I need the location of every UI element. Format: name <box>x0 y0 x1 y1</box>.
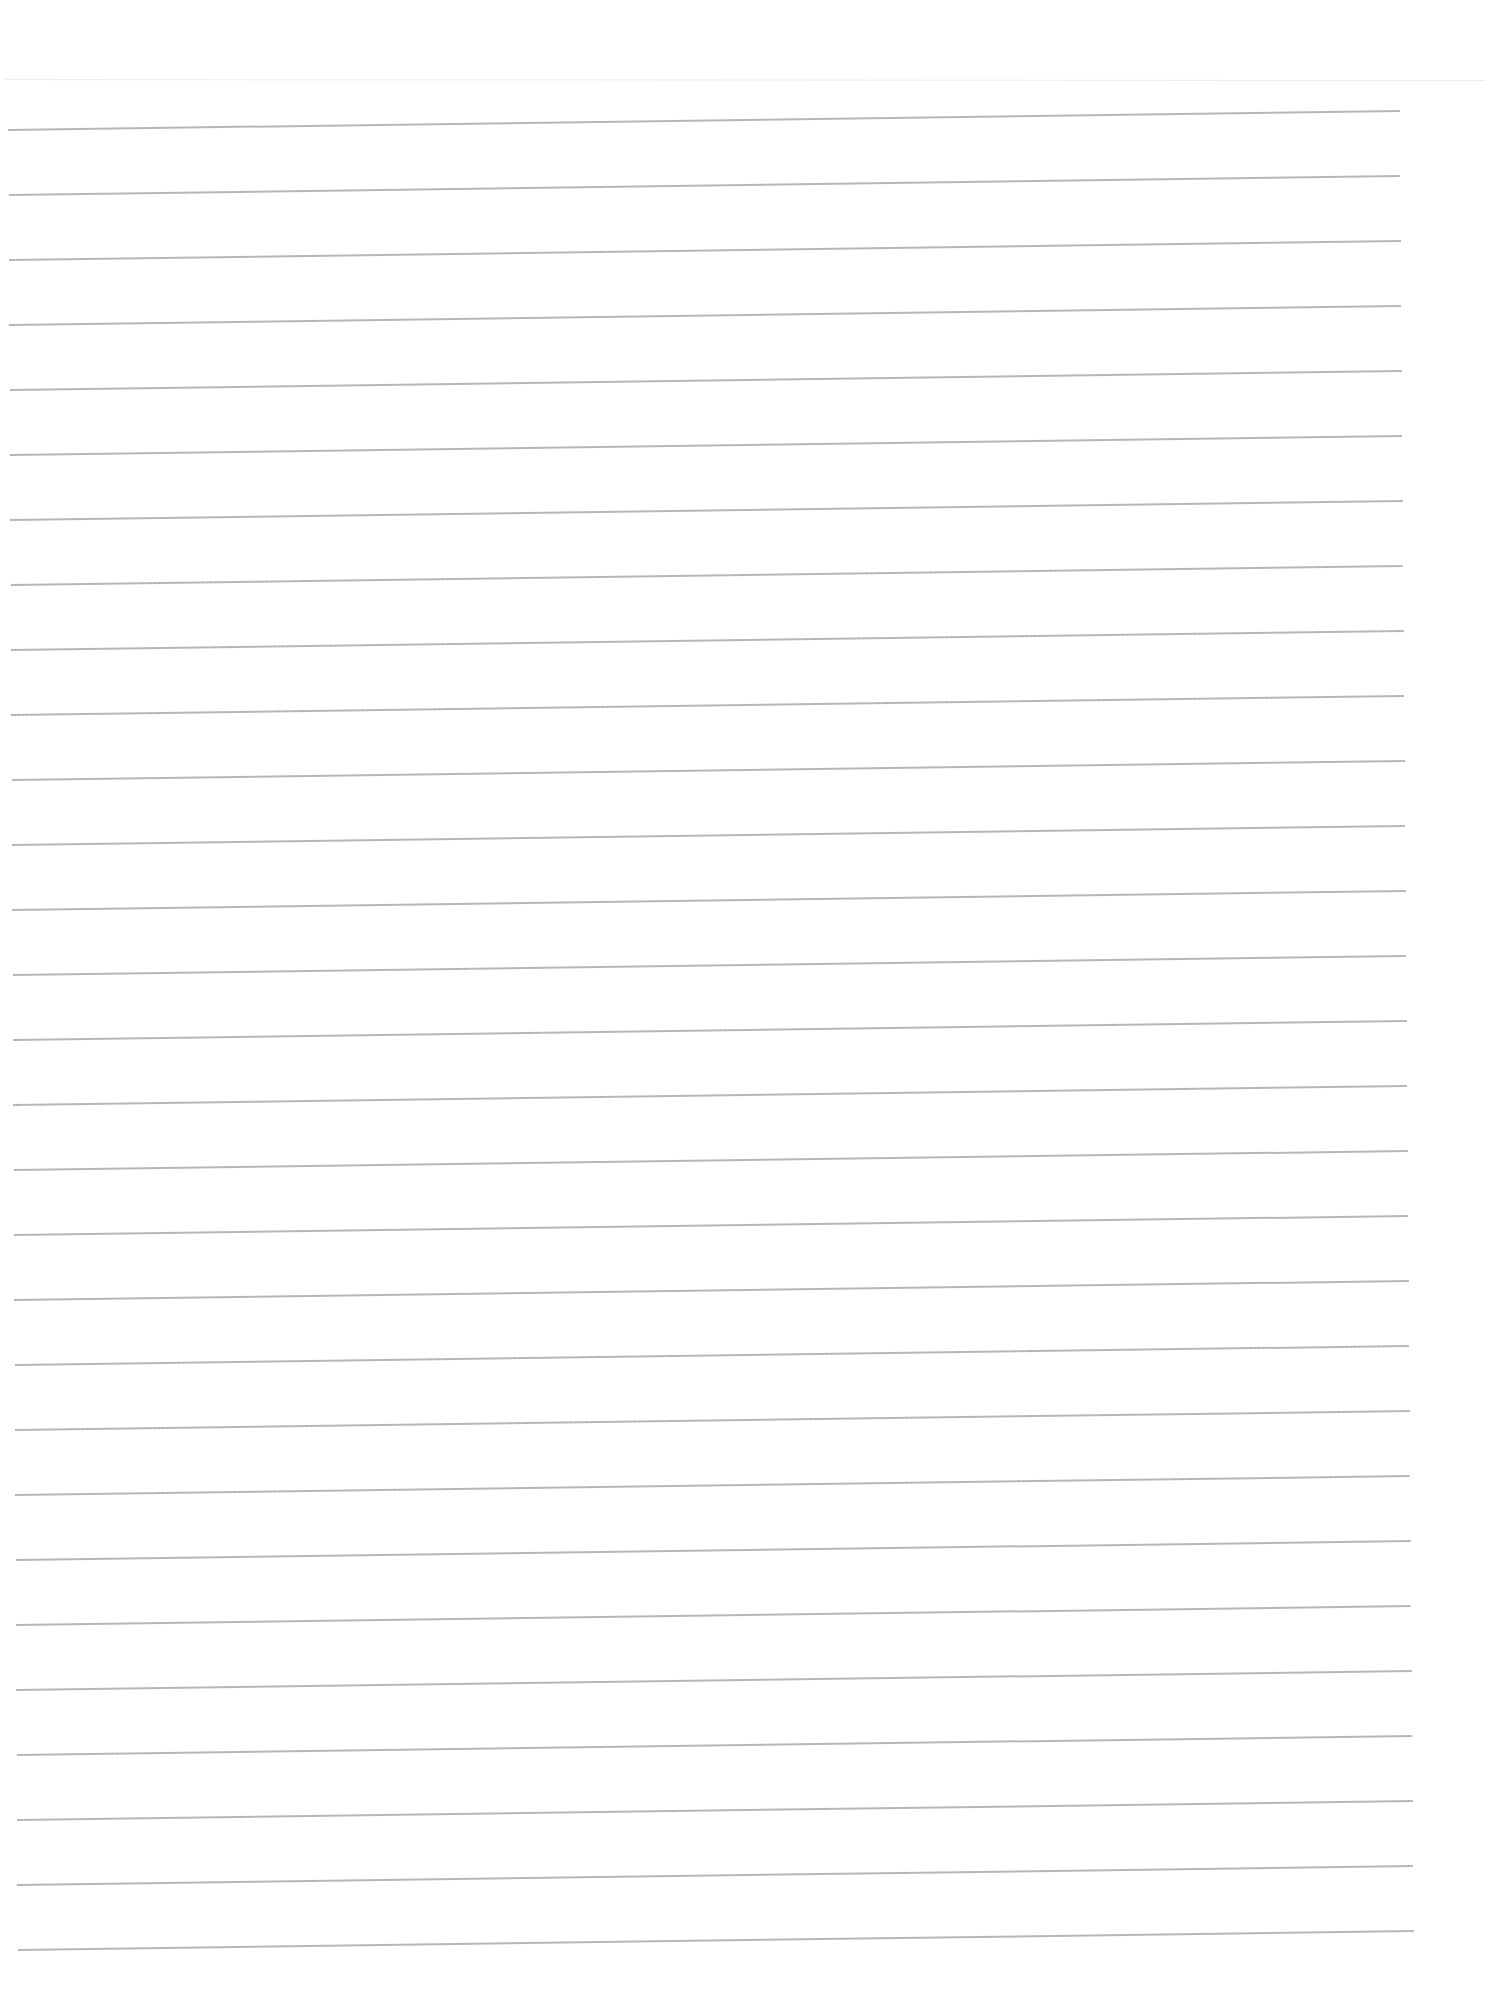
ruled-line <box>17 1735 1412 1756</box>
ruled-line <box>13 1020 1407 1041</box>
ruled-line <box>11 695 1404 716</box>
page-top-edge-line <box>5 79 1485 81</box>
ruled-line <box>12 825 1405 846</box>
ruled-line <box>10 370 1402 391</box>
ruled-line <box>15 1475 1410 1496</box>
ruled-line <box>16 1605 1411 1626</box>
ruled-line <box>16 1540 1411 1561</box>
ruled-line <box>13 955 1406 976</box>
ruled-line <box>12 760 1405 781</box>
ruled-line <box>15 1345 1409 1366</box>
ruled-line <box>11 565 1403 586</box>
ruled-line <box>9 305 1401 326</box>
ruled-line <box>11 630 1404 651</box>
ruled-line <box>14 1215 1408 1236</box>
ruled-line <box>12 890 1406 911</box>
ruled-line <box>17 1800 1413 1821</box>
ruled-paper-page <box>0 0 1485 2004</box>
ruled-line <box>18 1930 1414 1951</box>
ruled-line <box>17 1865 1413 1886</box>
ruled-line <box>10 500 1403 521</box>
ruled-line <box>13 1085 1407 1106</box>
ruled-line <box>9 175 1400 196</box>
ruled-line <box>14 1280 1409 1301</box>
ruled-line <box>14 1150 1408 1171</box>
ruled-line <box>16 1670 1412 1691</box>
ruled-line <box>10 435 1402 456</box>
ruled-line <box>8 110 1400 131</box>
ruled-line <box>9 240 1401 261</box>
ruled-line <box>15 1410 1410 1431</box>
